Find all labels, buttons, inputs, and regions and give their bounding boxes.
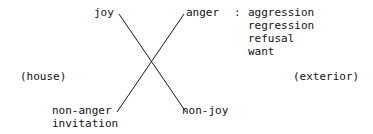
anger-expansion-item: refusal bbox=[248, 32, 294, 45]
sub-label-invitation: invitation bbox=[52, 117, 118, 130]
context-label-house: (house) bbox=[20, 70, 66, 83]
anger-separator-colon: : bbox=[234, 6, 241, 19]
term-anger: anger bbox=[186, 6, 219, 19]
term-non-joy: non-joy bbox=[182, 104, 228, 117]
anger-expansion-item: want bbox=[248, 45, 275, 58]
anger-expansion-item: regression bbox=[248, 19, 314, 32]
term-joy: joy bbox=[94, 6, 114, 19]
context-label-exterior: (exterior) bbox=[293, 70, 359, 83]
anger-expansion-item: aggression bbox=[248, 6, 314, 19]
term-non-anger: non-anger bbox=[52, 104, 112, 117]
semiotic-square-diagram: joy anger : aggression regression refusa… bbox=[0, 0, 373, 134]
axis-anger-to-non-anger bbox=[117, 14, 184, 112]
axis-joy-to-non-joy bbox=[119, 14, 186, 112]
